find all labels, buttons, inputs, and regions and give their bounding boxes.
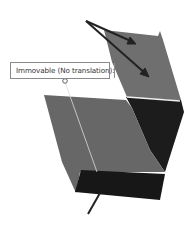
pin-line: [88, 193, 100, 214]
bottom-face[interactable]: [75, 170, 165, 200]
anchor-circle-icon[interactable]: [63, 79, 68, 84]
fixture-callout-value-cell: [114, 63, 115, 78]
fixture-callout-text: Immovable (No translation):: [11, 66, 114, 75]
sheet-metal-model-view: [0, 0, 190, 228]
top-flange-face[interactable]: [104, 30, 181, 100]
fixture-callout-label[interactable]: Immovable (No translation):: [10, 62, 110, 79]
